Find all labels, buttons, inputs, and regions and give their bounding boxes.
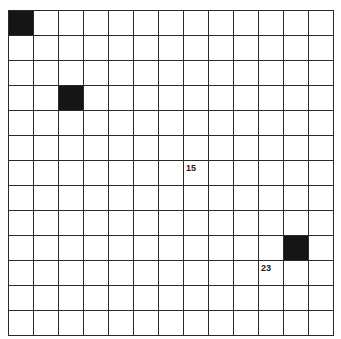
grid-cell[interactable] [159, 86, 184, 111]
grid-cell[interactable] [59, 11, 84, 36]
grid-cell[interactable] [209, 36, 234, 61]
grid-cell[interactable] [259, 86, 284, 111]
grid-cell[interactable] [9, 261, 34, 286]
grid-cell[interactable] [159, 111, 184, 136]
grid-cell[interactable] [209, 86, 234, 111]
grid-cell[interactable] [284, 61, 309, 86]
grid-cell[interactable] [184, 11, 209, 36]
grid-cell[interactable] [134, 261, 159, 286]
grid-cell[interactable] [159, 261, 184, 286]
grid-cell[interactable] [34, 161, 59, 186]
grid-cell[interactable] [209, 236, 234, 261]
grid-cell[interactable] [159, 11, 184, 36]
grid-cell[interactable] [9, 311, 34, 336]
grid-cell[interactable] [59, 236, 84, 261]
grid-cell[interactable] [34, 11, 59, 36]
grid-cell[interactable] [84, 311, 109, 336]
grid-cell[interactable]: 15 [184, 161, 209, 186]
grid-cell[interactable] [34, 211, 59, 236]
grid-cell[interactable] [84, 236, 109, 261]
grid-cell[interactable] [309, 236, 334, 261]
grid-cell[interactable] [34, 311, 59, 336]
grid-cell[interactable] [9, 61, 34, 86]
grid-cell[interactable] [34, 86, 59, 111]
grid-cell[interactable] [59, 186, 84, 211]
grid-cell[interactable] [84, 136, 109, 161]
grid-cell[interactable] [84, 286, 109, 311]
grid-cell[interactable] [34, 236, 59, 261]
grid-cell[interactable] [259, 36, 284, 61]
grid-cell[interactable] [234, 11, 259, 36]
grid-cell[interactable] [284, 211, 309, 236]
grid-cell[interactable] [234, 86, 259, 111]
grid-cell[interactable] [9, 36, 34, 61]
grid-cell[interactable] [9, 186, 34, 211]
grid-cell[interactable] [59, 136, 84, 161]
grid-cell[interactable]: 23 [259, 261, 284, 286]
grid-cell[interactable] [309, 161, 334, 186]
grid-cell[interactable] [284, 311, 309, 336]
grid-cell[interactable] [259, 211, 284, 236]
grid-cell[interactable] [184, 211, 209, 236]
grid-cell[interactable] [84, 111, 109, 136]
grid-cell[interactable] [209, 286, 234, 311]
grid-cell[interactable] [234, 136, 259, 161]
grid-cell[interactable] [159, 161, 184, 186]
grid-cell[interactable] [284, 136, 309, 161]
grid-cell[interactable] [234, 286, 259, 311]
grid-cell[interactable] [34, 61, 59, 86]
grid-cell[interactable] [159, 286, 184, 311]
grid-cell[interactable] [209, 161, 234, 186]
grid-cell[interactable] [259, 236, 284, 261]
grid-cell[interactable] [184, 111, 209, 136]
grid-cell[interactable] [109, 311, 134, 336]
grid-cell[interactable] [109, 211, 134, 236]
grid-cell[interactable] [109, 11, 134, 36]
grid-cell[interactable] [109, 161, 134, 186]
grid-cell[interactable] [234, 36, 259, 61]
grid-cell[interactable] [309, 11, 334, 36]
grid-cell[interactable] [9, 111, 34, 136]
grid-cell[interactable] [59, 261, 84, 286]
grid-cell[interactable] [209, 261, 234, 286]
grid-cell[interactable] [159, 211, 184, 236]
grid-cell[interactable] [34, 186, 59, 211]
grid-cell[interactable] [284, 111, 309, 136]
grid-cell[interactable] [134, 111, 159, 136]
grid-cell[interactable] [309, 286, 334, 311]
grid-cell[interactable] [159, 61, 184, 86]
grid-cell[interactable] [184, 61, 209, 86]
grid-cell[interactable] [209, 186, 234, 211]
grid-cell[interactable] [309, 86, 334, 111]
grid-cell[interactable] [159, 311, 184, 336]
grid-cell[interactable] [34, 136, 59, 161]
grid-cell[interactable] [84, 86, 109, 111]
grid-cell[interactable] [259, 311, 284, 336]
grid-cell[interactable] [134, 11, 159, 36]
grid-cell[interactable] [284, 11, 309, 36]
grid-cell[interactable] [9, 136, 34, 161]
grid-cell[interactable] [209, 111, 234, 136]
grid-cell[interactable] [59, 61, 84, 86]
grid-cell[interactable] [159, 36, 184, 61]
grid-cell[interactable] [59, 161, 84, 186]
grid-cell[interactable] [134, 86, 159, 111]
grid-cell[interactable] [34, 36, 59, 61]
grid-cell[interactable] [134, 211, 159, 236]
grid-cell[interactable] [284, 86, 309, 111]
grid-cell[interactable] [159, 186, 184, 211]
grid-cell[interactable] [184, 261, 209, 286]
grid-cell[interactable] [159, 236, 184, 261]
grid-cell[interactable] [234, 261, 259, 286]
grid-cell[interactable] [159, 136, 184, 161]
grid-cell[interactable] [109, 111, 134, 136]
grid-cell[interactable] [59, 211, 84, 236]
grid-cell[interactable] [209, 136, 234, 161]
grid-cell[interactable] [109, 136, 134, 161]
grid-cell[interactable] [109, 286, 134, 311]
grid-cell[interactable] [184, 286, 209, 311]
grid-cell[interactable] [84, 36, 109, 61]
grid-cell[interactable] [309, 111, 334, 136]
grid-cell[interactable] [259, 161, 284, 186]
grid-cell[interactable] [309, 186, 334, 211]
